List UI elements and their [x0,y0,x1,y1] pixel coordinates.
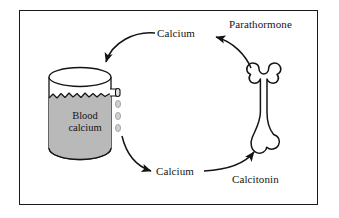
label-blood-calcium-line1: Blood [50,110,120,122]
figure-canvas: Calcium Parathormone Calcium Calcitonin … [0,0,339,218]
label-calcium-top: Calcium [157,27,195,39]
label-blood-calcium: Blood calcium [50,110,120,134]
label-calcitonin: Calcitonin [232,173,279,185]
label-blood-calcium-line2: calcium [50,122,120,134]
arrow-vessel-to-calcium [122,136,151,171]
label-parathormone: Parathormone [229,18,292,30]
bone-icon [247,63,281,153]
arrow-calcium-to-vessel [106,33,155,62]
container-rim [49,68,111,87]
arrow-parathormone-to-calcium [216,37,251,68]
label-calcium-bottom: Calcium [156,165,194,177]
container-spout [110,89,120,97]
arrow-calcitonin-to-bone [204,152,254,171]
